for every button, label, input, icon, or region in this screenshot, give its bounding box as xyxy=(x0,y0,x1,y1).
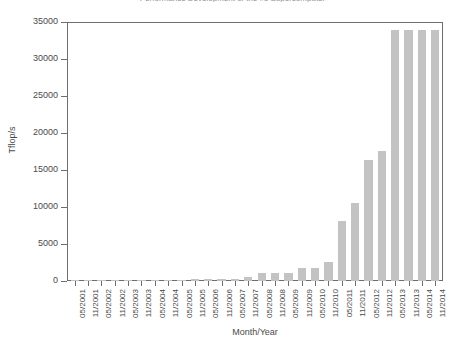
bar xyxy=(311,268,319,281)
y-axis-tick-mark xyxy=(61,133,67,134)
bar xyxy=(338,221,346,281)
y-axis-tick-label: 35000 xyxy=(33,16,58,26)
x-axis-tick-mark xyxy=(195,281,196,286)
x-axis-tick-mark xyxy=(101,281,102,286)
bar xyxy=(364,160,372,281)
x-axis: 05/200111/200105/200211/200205/200311/20… xyxy=(68,281,442,351)
x-axis-tick-mark xyxy=(328,281,329,286)
y-axis-tick: 5000 xyxy=(0,244,67,245)
y-axis-tick-label: 15000 xyxy=(33,164,58,174)
x-axis-tick-label: 11/2010 xyxy=(331,289,340,329)
x-axis-tick-label: 05/2005 xyxy=(185,289,194,329)
bar xyxy=(298,268,306,281)
x-axis-tick-mark xyxy=(222,281,223,286)
x-axis-tick-label: 05/2004 xyxy=(158,289,167,329)
x-axis-tick-label: 11/2014 xyxy=(438,289,447,329)
x-axis-tick-label: 11/2013 xyxy=(412,289,421,329)
x-axis-tick-mark xyxy=(115,281,116,286)
x-axis-tick-label: 05/2009 xyxy=(291,289,300,329)
x-axis-tick-label: 11/2006 xyxy=(225,289,234,329)
x-axis-tick-mark xyxy=(382,281,383,286)
y-axis-tick-mark xyxy=(61,207,67,208)
y-axis-tick-mark xyxy=(61,96,67,97)
y-axis-tick-mark xyxy=(61,59,67,60)
x-axis-tick-mark xyxy=(248,281,249,286)
x-axis-tick-mark xyxy=(182,281,183,286)
y-axis-tick-mark xyxy=(61,170,67,171)
x-axis-tick-label: 05/2013 xyxy=(398,289,407,329)
x-axis-tick-label: 05/2002 xyxy=(104,289,113,329)
x-axis-tick-mark xyxy=(75,281,76,286)
bar xyxy=(284,273,292,281)
bar xyxy=(258,273,266,281)
x-axis-tick-mark xyxy=(288,281,289,286)
x-axis-tick-mark xyxy=(409,281,410,286)
x-axis-tick-mark xyxy=(168,281,169,286)
y-axis-tick-label: 5000 xyxy=(38,238,58,248)
y-axis-tick-label: 30000 xyxy=(33,53,58,63)
bar xyxy=(404,30,412,281)
x-axis-tick-mark xyxy=(275,281,276,286)
y-axis-tick-mark xyxy=(61,22,67,23)
x-axis-tick-label: 11/2008 xyxy=(278,289,287,329)
chart-title: Performance Development of the #1 Superc… xyxy=(0,0,465,2)
bar xyxy=(431,30,439,281)
x-axis-tick-mark xyxy=(128,281,129,286)
bar xyxy=(378,151,386,281)
x-axis-tick-label: 11/2009 xyxy=(305,289,314,329)
bar xyxy=(271,273,279,281)
y-axis-tick: 35000 xyxy=(0,22,67,23)
x-axis-tick-mark xyxy=(155,281,156,286)
x-axis-tick-label: 05/2014 xyxy=(425,289,434,329)
x-axis-tick-mark xyxy=(315,281,316,286)
x-axis-tick-mark xyxy=(355,281,356,286)
y-axis-tick-mark xyxy=(61,281,67,282)
y-axis-tick-label: 20000 xyxy=(33,127,58,137)
x-axis-tick-mark xyxy=(141,281,142,286)
y-axis-tick-label: 0 xyxy=(53,275,58,285)
x-axis-tick-mark xyxy=(302,281,303,286)
x-axis-tick-label: 05/2012 xyxy=(372,289,381,329)
x-axis-tick-label: 11/2005 xyxy=(198,289,207,329)
chart-container: Performance Development of the #1 Superc… xyxy=(0,0,465,355)
x-axis-tick-label: 05/2011 xyxy=(345,289,354,329)
x-axis-tick-label: 05/2003 xyxy=(131,289,140,329)
bar xyxy=(351,203,359,281)
x-axis-tick-label: 05/2007 xyxy=(238,289,247,329)
y-axis-tick: 10000 xyxy=(0,207,67,208)
x-axis-tick-mark xyxy=(369,281,370,286)
x-axis-tick-label: 11/2007 xyxy=(251,289,260,329)
x-axis-tick-label: 11/2002 xyxy=(118,289,127,329)
y-axis-tick: 30000 xyxy=(0,59,67,60)
y-axis-tick: 0 xyxy=(0,281,67,282)
bar-series xyxy=(68,23,442,281)
x-axis-tick-mark xyxy=(435,281,436,286)
x-axis-title: Month/Year xyxy=(67,327,443,337)
y-axis-title: Tflop/s xyxy=(7,105,17,175)
x-axis-tick-mark xyxy=(395,281,396,286)
x-axis-tick-mark xyxy=(208,281,209,286)
bar xyxy=(391,30,399,281)
y-axis-tick: 25000 xyxy=(0,96,67,97)
x-axis-tick-mark xyxy=(262,281,263,286)
x-axis-tick-label: 05/2006 xyxy=(211,289,220,329)
x-axis-tick-label: 05/2008 xyxy=(265,289,274,329)
bar xyxy=(324,262,332,281)
x-axis-tick-label: 11/2001 xyxy=(91,289,100,329)
x-axis-tick-label: 11/2012 xyxy=(385,289,394,329)
x-axis-tick-label: 05/2010 xyxy=(318,289,327,329)
x-axis-tick-mark xyxy=(422,281,423,286)
x-axis-tick-mark xyxy=(342,281,343,286)
x-axis-tick-label: 11/2004 xyxy=(171,289,180,329)
y-axis-tick-label: 25000 xyxy=(33,90,58,100)
bar xyxy=(418,30,426,281)
y-axis-tick-mark xyxy=(61,244,67,245)
x-axis-tick-mark xyxy=(88,281,89,286)
x-axis-tick-label: 05/2001 xyxy=(78,289,87,329)
x-axis-tick-label: 11/2003 xyxy=(144,289,153,329)
x-axis-tick-mark xyxy=(235,281,236,286)
y-axis-tick-label: 10000 xyxy=(33,201,58,211)
x-axis-tick-label: 11/2011 xyxy=(358,289,367,329)
